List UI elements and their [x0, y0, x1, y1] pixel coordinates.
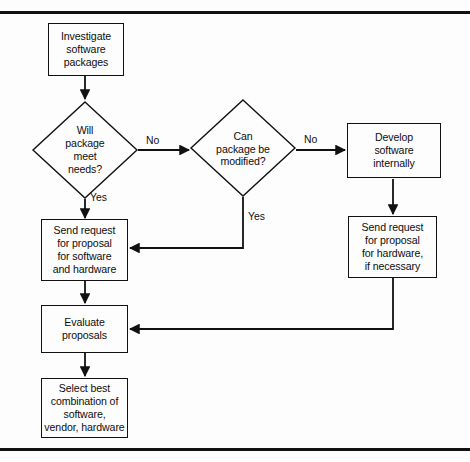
diamond-will-meet-needs	[33, 102, 137, 198]
node-line: software,	[42, 408, 126, 421]
node-line: Investigate	[59, 30, 113, 43]
node-line: packages	[59, 56, 113, 69]
node-line: Develop	[371, 131, 416, 144]
node-line: vendor, hardware	[42, 421, 126, 434]
edge-rfp-hw-to-evaluate	[130, 278, 393, 329]
node-investigate-software-packages[interactable]: Investigate software packages	[48, 23, 124, 76]
node-line: for proposal	[51, 237, 119, 250]
node-line: software	[371, 144, 416, 157]
node-line: for proposal	[360, 234, 426, 247]
node-develop-software-internally[interactable]: Develop software internally	[347, 123, 441, 178]
node-line: internally	[371, 157, 416, 170]
node-send-request-proposal-hardware[interactable]: Send request for proposal for hardware, …	[348, 216, 437, 278]
node-line: combination of	[42, 395, 126, 408]
node-select-best-combination[interactable]: Select best combination of software, ven…	[41, 378, 128, 438]
node-line: Evaluate	[60, 316, 109, 329]
node-line: and hardware	[51, 263, 119, 276]
node-line: if necessary	[360, 260, 426, 273]
node-line: proposals	[60, 329, 109, 342]
node-send-request-proposal-software-hardware[interactable]: Send request for proposal for software a…	[41, 219, 128, 281]
diamond-can-modify	[191, 100, 295, 196]
node-line: Select best	[42, 382, 126, 395]
node-line: Send request	[51, 224, 119, 237]
edge-label-yes-from-needs: Yes	[90, 192, 107, 203]
edge-label-no-from-modify: No	[304, 134, 317, 145]
edge-label-no-from-needs: No	[146, 135, 159, 146]
edge-modify-yes-to-rfp-sw	[130, 197, 243, 248]
node-evaluate-proposals[interactable]: Evaluate proposals	[41, 305, 128, 353]
node-line: software	[59, 43, 113, 56]
node-line: Send request	[360, 221, 426, 234]
node-line: for hardware,	[360, 247, 426, 260]
node-line: for software	[51, 250, 119, 263]
edge-label-yes-from-modify: Yes	[248, 211, 265, 222]
flowchart-page: Investigate software packages Develop so…	[0, 0, 470, 462]
